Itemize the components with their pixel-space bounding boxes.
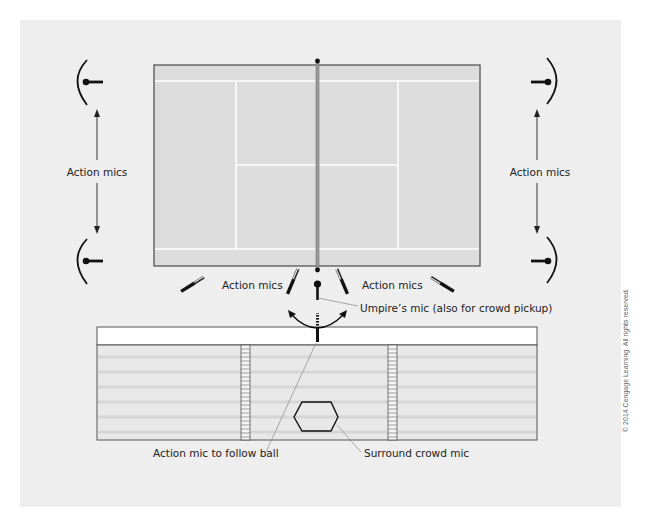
aisle-left: [241, 345, 250, 440]
label-action-mics-right: Action mics: [510, 166, 571, 178]
tennis-mic-placement-diagram: Action mics Action mics Action mics Acti…: [0, 0, 649, 512]
label-action-mic-follow-ball: Action mic to follow ball: [153, 447, 279, 459]
net-post-bottom: [315, 268, 320, 273]
label-umpire-mic: Umpire’s mic (also for crowd pickup): [360, 302, 552, 314]
stands-seating-area: [97, 345, 537, 440]
tennis-court: [154, 59, 480, 273]
label-action-mics-left: Action mics: [67, 166, 128, 178]
net-post-top: [315, 59, 320, 64]
aisle-right: [388, 345, 397, 440]
label-surround-crowd-mic: Surround crowd mic: [364, 447, 469, 459]
copyright-notice: © 2014 Cengage Learning. All rights rese…: [622, 288, 630, 432]
shotgun-mic-icon: [316, 313, 319, 327]
net: [316, 62, 319, 270]
spectator-stands: [97, 327, 537, 440]
label-action-mics-bottom-right: Action mics: [362, 279, 423, 291]
label-action-mics-bottom-left: Action mics: [222, 279, 283, 291]
